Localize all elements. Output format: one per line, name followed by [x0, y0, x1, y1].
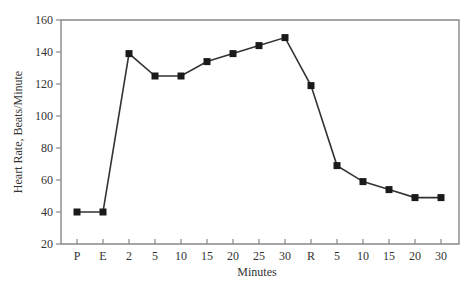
y-tick-label: 100	[35, 109, 53, 123]
x-tick-label: 10	[175, 249, 187, 263]
data-point-marker	[412, 194, 419, 201]
x-tick-label: 15	[383, 249, 395, 263]
data-point-marker	[100, 209, 107, 216]
heart-rate-series	[74, 34, 445, 215]
data-point-marker	[152, 73, 159, 80]
x-tick-label: 2	[126, 249, 132, 263]
x-tick-label: E	[99, 249, 106, 263]
x-tick-label: R	[307, 249, 315, 263]
x-tick-label: 25	[253, 249, 265, 263]
x-tick-label: P	[74, 249, 81, 263]
data-point-marker	[334, 162, 341, 169]
y-tick-label: 60	[41, 173, 53, 187]
plot-border	[61, 20, 459, 244]
x-tick-label: 20	[409, 249, 421, 263]
y-axis: 20406080100120140160	[35, 13, 61, 251]
heart-rate-chart: 20406080100120140160 PE251015202530R5101…	[0, 0, 474, 292]
y-tick-label: 140	[35, 45, 53, 59]
x-tick-label: 5	[334, 249, 340, 263]
data-point-marker	[178, 73, 185, 80]
data-point-marker	[438, 194, 445, 201]
y-tick-label: 80	[41, 141, 53, 155]
y-tick-label: 20	[41, 237, 53, 251]
series-line	[77, 38, 441, 212]
plot-frame	[61, 20, 459, 244]
y-axis-title: Heart Rate, Beats/Minute	[11, 71, 25, 193]
y-tick-label: 120	[35, 77, 53, 91]
x-tick-label: 20	[227, 249, 239, 263]
x-axis: PE251015202530R510152030	[74, 239, 447, 263]
x-tick-label: 15	[201, 249, 213, 263]
data-point-marker	[74, 209, 81, 216]
data-point-marker	[386, 186, 393, 193]
data-point-marker	[308, 82, 315, 89]
data-point-marker	[360, 178, 367, 185]
data-point-marker	[230, 50, 237, 57]
x-tick-label: 10	[357, 249, 369, 263]
data-point-marker	[282, 34, 289, 41]
x-tick-label: 5	[152, 249, 158, 263]
x-tick-label: 30	[279, 249, 291, 263]
data-point-marker	[126, 50, 133, 57]
x-tick-label: 30	[435, 249, 447, 263]
x-axis-title: Minutes	[237, 265, 277, 279]
y-tick-label: 160	[35, 13, 53, 27]
y-tick-label: 40	[41, 205, 53, 219]
data-point-marker	[256, 42, 263, 49]
data-point-marker	[204, 58, 211, 65]
